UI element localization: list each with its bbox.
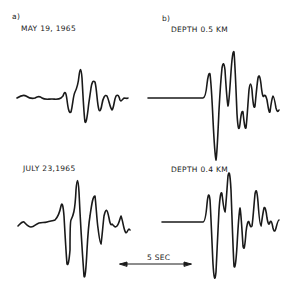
scale-bar-arrow [120, 262, 191, 266]
trace-depth-0-4-km [162, 173, 279, 278]
trace-depth-0-5-km [148, 52, 279, 160]
trace-july-23-1965 [18, 181, 130, 277]
trace-may-19-1965 [17, 70, 128, 123]
seismogram-traces [0, 0, 306, 293]
